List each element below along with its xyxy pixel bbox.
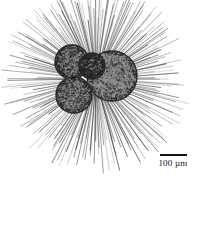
- stipple-dot: [123, 86, 124, 87]
- stipple-dot: [66, 52, 67, 53]
- stipple-dot: [83, 93, 84, 94]
- stipple-dot: [98, 73, 100, 75]
- stipple-dot: [95, 89, 96, 90]
- stipple-dot: [83, 59, 85, 61]
- stipple-dot: [59, 73, 61, 75]
- stipple-dot: [111, 62, 112, 63]
- stipple-dot: [94, 65, 95, 66]
- stipple-dot: [78, 60, 79, 61]
- stipple-dot: [60, 95, 62, 97]
- stipple-dot: [76, 107, 77, 108]
- stipple-dot: [57, 90, 59, 92]
- stipple-dot: [118, 88, 119, 89]
- stipple-dot: [111, 100, 113, 102]
- stipple-dot: [66, 82, 67, 83]
- stipple-dot: [90, 73, 92, 75]
- stipple-dot: [63, 102, 64, 103]
- stipple-dot: [132, 86, 134, 88]
- stipple-dot: [63, 104, 64, 105]
- stipple-dot: [66, 84, 67, 85]
- stipple-dot: [71, 111, 72, 112]
- stipple-dot: [76, 54, 77, 55]
- stipple-dot: [119, 65, 120, 66]
- stipple-dot: [91, 97, 93, 99]
- stipple-dot: [104, 90, 105, 91]
- stipple-dot: [69, 94, 71, 96]
- stipple-dot: [83, 108, 85, 110]
- stipple-dot: [108, 82, 109, 83]
- stipple-dot: [66, 60, 67, 61]
- stipple-dot: [119, 85, 120, 86]
- stipple-dot: [89, 69, 90, 70]
- stipple-dot: [93, 81, 94, 82]
- stipple-dot: [72, 75, 73, 76]
- stipple-dot: [86, 102, 88, 104]
- stipple-dot: [124, 67, 125, 68]
- stipple-dot: [88, 71, 89, 72]
- stipple-dot: [112, 75, 113, 76]
- stipple-dot: [60, 92, 61, 93]
- stipple-dot: [67, 57, 68, 58]
- stipple-dot: [66, 58, 67, 59]
- stipple-dot: [103, 61, 105, 63]
- stipple-dot: [100, 71, 102, 73]
- stipple-dot: [116, 70, 117, 71]
- stipple-dot: [63, 87, 64, 88]
- stipple-dot: [90, 70, 91, 71]
- stipple-dot: [71, 95, 73, 97]
- stipple-dot: [85, 73, 87, 75]
- stipple-dot: [95, 54, 97, 56]
- stipple-dot: [68, 101, 70, 103]
- stipple-dot: [65, 51, 67, 53]
- stipple-dot: [87, 76, 89, 78]
- stipple-dot: [122, 76, 124, 78]
- stipple-dot: [123, 94, 125, 96]
- scale-bar: 100 µm: [150, 148, 196, 174]
- stipple-dot: [92, 64, 94, 66]
- stipple-dot: [117, 80, 118, 81]
- stipple-dot: [126, 85, 128, 87]
- stipple-dot: [97, 73, 99, 75]
- stipple-dot: [66, 50, 67, 51]
- stipple-dot: [79, 111, 81, 113]
- stipple-dot: [74, 93, 75, 94]
- stipple-dot: [119, 89, 120, 90]
- stipple-dot: [100, 94, 101, 95]
- stipple-dot: [111, 74, 112, 75]
- stipple-dot: [123, 54, 125, 56]
- stipple-dot: [90, 90, 91, 91]
- stipple-dot: [99, 92, 100, 93]
- stipple-dot: [89, 81, 91, 83]
- stipple-dot: [83, 61, 84, 62]
- stipple-dot: [89, 88, 91, 90]
- stipple-dot: [73, 56, 74, 57]
- stipple-dot: [129, 71, 130, 72]
- stipple-dot: [75, 66, 76, 67]
- stipple-dot: [71, 78, 73, 80]
- stipple-dot: [127, 89, 129, 91]
- stipple-dot: [107, 58, 108, 59]
- stipple-dot: [71, 86, 72, 87]
- stipple-dot: [107, 62, 108, 63]
- stipple-dot: [97, 70, 99, 72]
- stipple-dot: [128, 63, 130, 65]
- stipple-dot: [87, 90, 88, 91]
- stipple-dot: [74, 60, 75, 61]
- stipple-dot: [95, 62, 96, 63]
- stipple-dot: [100, 54, 102, 56]
- stipple-dot: [83, 71, 85, 73]
- stipple-dot: [59, 69, 61, 71]
- stipple-dot: [135, 69, 137, 71]
- stipple-dot: [134, 82, 136, 84]
- stipple-dot: [88, 89, 90, 91]
- stipple-dot: [80, 83, 81, 84]
- stipple-dot: [67, 109, 69, 111]
- stipple-dot: [86, 65, 87, 66]
- stipple-dot: [83, 100, 84, 101]
- stipple-dot: [82, 68, 84, 70]
- stipple-dot: [101, 88, 102, 89]
- stipple-dot: [80, 54, 81, 55]
- stipple-dot: [66, 69, 67, 70]
- stipple-dot: [99, 62, 100, 63]
- stipple-dot: [76, 92, 77, 93]
